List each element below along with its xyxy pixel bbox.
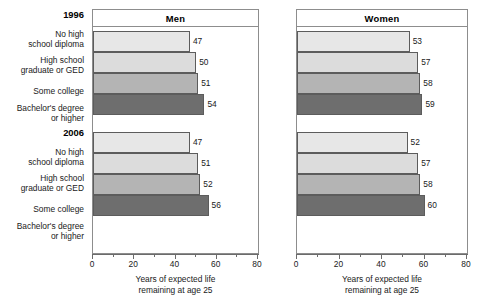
category-label-line1: Some college — [33, 204, 84, 214]
category-label-some-college: Some college — [0, 87, 84, 97]
panel-men: Men 4750515447515256 — [92, 9, 259, 254]
axis-tick-minor — [402, 255, 403, 257]
x-axis-title-women: Years of expected life remaining at age … — [296, 274, 468, 295]
axis-tick-label: 60 — [204, 259, 228, 269]
axis-line — [296, 254, 468, 255]
category-label-bachelors-degree: Bachelor's degree or higher — [0, 222, 84, 241]
axis-title-line1: Years of expected life — [136, 274, 216, 284]
category-label-line2: graduate or GED — [21, 65, 84, 75]
axis-tick-minor — [317, 255, 318, 257]
axis-tick-minor — [195, 255, 196, 257]
category-label-line1: Bachelor's degree — [17, 103, 84, 113]
axis-tick-minor — [113, 255, 114, 257]
bar-value-label: 47 — [193, 132, 202, 153]
category-label-line2: school diploma — [28, 39, 84, 49]
bar-women-2006-0 — [297, 132, 408, 153]
bar-value-label: 60 — [428, 195, 437, 216]
bar-men-2006-0 — [93, 132, 190, 153]
category-label-line1: No high — [55, 29, 84, 39]
category-label-line2: graduate or GED — [21, 183, 84, 193]
category-label-line1: Some college — [33, 86, 84, 96]
bar-women-1996-2 — [297, 73, 420, 94]
bar-value-label: 47 — [193, 31, 202, 52]
plot-area-women: 5357585952575860 — [297, 27, 467, 253]
x-axis-men: 020406080 — [92, 254, 259, 255]
panel-title: Women — [364, 13, 399, 24]
axis-tick-label: 40 — [369, 259, 393, 269]
bar-value-label: 50 — [199, 52, 208, 73]
panel-title: Men — [166, 13, 186, 24]
axis-tick-label: 20 — [327, 259, 351, 269]
category-label-some-college: Some college — [0, 205, 84, 215]
bar-value-label: 57 — [421, 52, 430, 73]
category-label-line2: or higher — [51, 231, 84, 241]
category-label-line2: school diploma — [28, 157, 84, 167]
bar-men-2006-3 — [93, 195, 209, 216]
category-label-no-high-school-diploma: No high school diploma — [0, 30, 84, 49]
bar-value-label: 56 — [212, 195, 221, 216]
category-label-line1: High school — [40, 55, 84, 65]
bar-value-label: 51 — [201, 73, 210, 94]
panel-header-men: Men — [93, 10, 258, 27]
bar-value-label: 57 — [421, 153, 430, 174]
bar-men-1996-3 — [93, 94, 204, 115]
bar-value-label: 51 — [201, 153, 210, 174]
panel-women: Women 5357585952575860 — [296, 9, 468, 254]
x-axis-women: 020406080 — [296, 254, 468, 255]
bar-value-label: 58 — [423, 73, 432, 94]
bar-women-2006-2 — [297, 174, 420, 195]
x-axis-title-men: Years of expected life remaining at age … — [92, 274, 259, 295]
bar-women-2006-3 — [297, 195, 425, 216]
bar-women-2006-1 — [297, 153, 418, 174]
bar-value-label: 59 — [425, 94, 434, 115]
panel-header-women: Women — [297, 10, 467, 27]
bar-value-label: 54 — [207, 94, 216, 115]
life-expectancy-bar-chart: 1996 No high school diploma High school … — [0, 0, 495, 306]
bar-value-label: 58 — [423, 174, 432, 195]
bar-men-2006-1 — [93, 153, 198, 174]
category-label-no-high-school-diploma: No high school diploma — [0, 148, 84, 167]
bar-value-label: 52 — [411, 132, 420, 153]
bar-value-label: 52 — [203, 174, 212, 195]
axis-tick-label: 40 — [163, 259, 187, 269]
axis-tick-label: 20 — [121, 259, 145, 269]
bar-men-1996-1 — [93, 52, 196, 73]
category-label-high-school-graduate: High school graduate or GED — [0, 174, 84, 193]
bar-men-1996-2 — [93, 73, 198, 94]
axis-tick-minor — [236, 255, 237, 257]
bar-women-1996-3 — [297, 94, 422, 115]
category-label-bachelors-degree: Bachelor's degree or higher — [0, 104, 84, 123]
category-label-line1: No high — [55, 147, 84, 157]
axis-line — [92, 254, 259, 255]
axis-title-line2: remaining at age 25 — [138, 285, 212, 295]
category-label-line1: High school — [40, 173, 84, 183]
axis-tick-minor — [154, 255, 155, 257]
bar-men-2006-2 — [93, 174, 200, 195]
axis-tick-label: 0 — [80, 259, 104, 269]
axis-tick-label: 80 — [245, 259, 269, 269]
axis-tick-label: 60 — [412, 259, 436, 269]
bar-women-1996-0 — [297, 31, 410, 52]
category-label-high-school-graduate: High school graduate or GED — [0, 56, 84, 75]
category-label-line1: Bachelor's degree — [17, 221, 84, 231]
axis-title-line1: Years of expected life — [342, 274, 422, 284]
axis-title-line2: remaining at age 25 — [345, 285, 419, 295]
axis-tick-minor — [360, 255, 361, 257]
category-label-line2: or higher — [51, 113, 84, 123]
bar-value-label: 53 — [413, 31, 422, 52]
group-label-1996: 1996 — [0, 9, 84, 20]
axis-tick-label: 0 — [284, 259, 308, 269]
axis-tick-label: 80 — [454, 259, 478, 269]
plot-area-men: 4750515447515256 — [93, 27, 258, 253]
bar-men-1996-0 — [93, 31, 190, 52]
bar-women-1996-1 — [297, 52, 418, 73]
axis-tick-minor — [445, 255, 446, 257]
group-label-2006: 2006 — [0, 127, 84, 138]
